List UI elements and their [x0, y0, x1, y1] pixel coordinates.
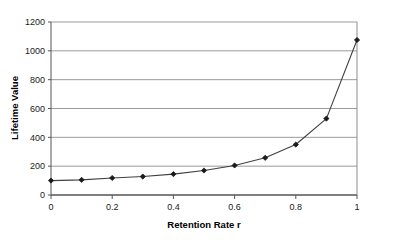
x-axis-title: Retention Rate r — [167, 219, 241, 230]
x-tick-label: 0.6 — [228, 202, 241, 212]
y-tick-label: 0 — [40, 190, 45, 200]
chart-container: 020040060080010001200 00.20.40.60.81 Ret… — [0, 0, 393, 242]
x-tick-label: 0.8 — [290, 202, 303, 212]
y-axis-title: Lifetime Value — [9, 76, 20, 140]
x-tick-label: 1 — [354, 202, 359, 212]
x-tick-label: 0.4 — [167, 202, 180, 212]
y-tick-label: 600 — [30, 104, 45, 114]
y-tick-label: 1000 — [25, 46, 45, 56]
y-tick-label: 1200 — [25, 17, 45, 27]
line-chart: 020040060080010001200 00.20.40.60.81 Ret… — [0, 0, 393, 242]
x-tick-label: 0 — [48, 202, 53, 212]
y-tick-label: 800 — [30, 75, 45, 85]
y-tick-label: 200 — [30, 161, 45, 171]
y-tick-label: 400 — [30, 133, 45, 143]
chart-background — [0, 0, 393, 242]
x-tick-label: 0.2 — [106, 202, 119, 212]
